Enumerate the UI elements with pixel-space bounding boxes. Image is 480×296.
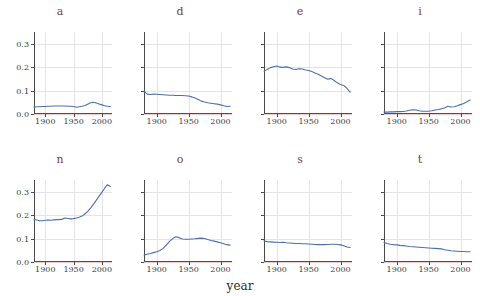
x-tick-label: 1950 (178, 265, 198, 274)
data-series-path (264, 66, 350, 92)
series-line-s (264, 180, 352, 262)
plot-area-n: 0.00.10.20.3190019502000 (34, 180, 112, 262)
data-series-path (34, 185, 110, 221)
facet-title-e: e (240, 6, 360, 18)
plot-area-e: 190019502000 (264, 32, 352, 114)
y-tick-label: 0.1 (16, 86, 29, 95)
x-tick-label: 2000 (330, 117, 350, 126)
x-tick-label: 2000 (210, 117, 230, 126)
series-line-n (34, 180, 112, 262)
x-tick-label: 2000 (92, 117, 112, 126)
x-tick-label: 1950 (298, 117, 318, 126)
x-tick-label: 1950 (178, 117, 198, 126)
x-tick-label: 1900 (267, 265, 287, 274)
x-axis-label: year (0, 279, 480, 293)
data-series-path (144, 237, 230, 255)
facet-title-n: n (0, 154, 120, 166)
data-series-path (264, 241, 350, 248)
x-tick-label: 1950 (418, 117, 438, 126)
x-tick-label: 1900 (387, 265, 407, 274)
plot-area-o: 190019502000 (144, 180, 232, 262)
data-series-path (384, 100, 470, 112)
y-tick-mark (381, 262, 384, 263)
plot-area-s: 190019502000 (264, 180, 352, 262)
facet-title-i: i (360, 6, 480, 18)
facet-panel-s: s190019502000 (240, 148, 360, 296)
y-tick-label: 0.0 (16, 110, 29, 119)
x-tick-label: 1900 (267, 117, 287, 126)
x-tick-label: 2000 (210, 265, 230, 274)
series-line-e (264, 32, 352, 114)
x-tick-label: 1950 (418, 265, 438, 274)
series-line-a (34, 32, 112, 114)
y-tick-label: 0.2 (16, 63, 29, 72)
facet-title-o: o (120, 154, 240, 166)
plot-area-a: 0.00.10.20.3190019502000 (34, 32, 112, 114)
series-line-i (384, 32, 472, 114)
series-line-d (144, 32, 232, 114)
y-tick-mark (141, 114, 144, 115)
plot-area-d: 190019502000 (144, 32, 232, 114)
facet-panel-a: a0.00.10.20.3190019502000 (0, 0, 120, 148)
y-tick-mark (381, 114, 384, 115)
x-tick-label: 2000 (450, 265, 470, 274)
y-tick-mark (261, 114, 264, 115)
facet-title-a: a (0, 6, 120, 18)
y-tick-mark (31, 114, 34, 115)
facet-grid: a0.00.10.20.3190019502000d190019502000e1… (0, 0, 480, 296)
x-tick-label: 1950 (298, 265, 318, 274)
y-tick-mark (141, 262, 144, 263)
x-tick-label: 2000 (92, 265, 112, 274)
facet-title-t: t (360, 154, 480, 166)
facet-panel-d: d190019502000 (120, 0, 240, 148)
facet-panel-o: o190019502000 (120, 148, 240, 296)
x-tick-label: 1900 (35, 117, 55, 126)
y-tick-mark (31, 262, 34, 263)
y-tick-label: 0.0 (16, 258, 29, 267)
facet-panel-e: e190019502000 (240, 0, 360, 148)
chart-root: a0.00.10.20.3190019502000d190019502000e1… (0, 0, 480, 296)
data-series-path (34, 102, 110, 107)
series-line-t (384, 180, 472, 262)
facet-panel-n: n0.00.10.20.3190019502000 (0, 148, 120, 296)
x-tick-label: 1900 (35, 265, 55, 274)
facet-title-s: s (240, 154, 360, 166)
x-tick-label: 1950 (63, 265, 83, 274)
plot-area-t: 190019502000 (384, 180, 472, 262)
series-line-o (144, 180, 232, 262)
data-series-path (144, 91, 230, 106)
x-tick-label: 1900 (147, 265, 167, 274)
x-tick-label: 1950 (63, 117, 83, 126)
plot-area-i: 190019502000 (384, 32, 472, 114)
x-tick-label: 1900 (147, 117, 167, 126)
y-tick-label: 0.3 (16, 187, 29, 196)
data-series-path (384, 243, 470, 252)
y-tick-label: 0.1 (16, 234, 29, 243)
x-tick-label: 1900 (387, 117, 407, 126)
x-tick-label: 2000 (450, 117, 470, 126)
y-tick-label: 0.2 (16, 211, 29, 220)
y-tick-label: 0.3 (16, 39, 29, 48)
y-tick-mark (261, 262, 264, 263)
facet-panel-t: t190019502000 (360, 148, 480, 296)
facet-title-d: d (120, 6, 240, 18)
facet-panel-i: i190019502000 (360, 0, 480, 148)
x-tick-label: 2000 (330, 265, 350, 274)
